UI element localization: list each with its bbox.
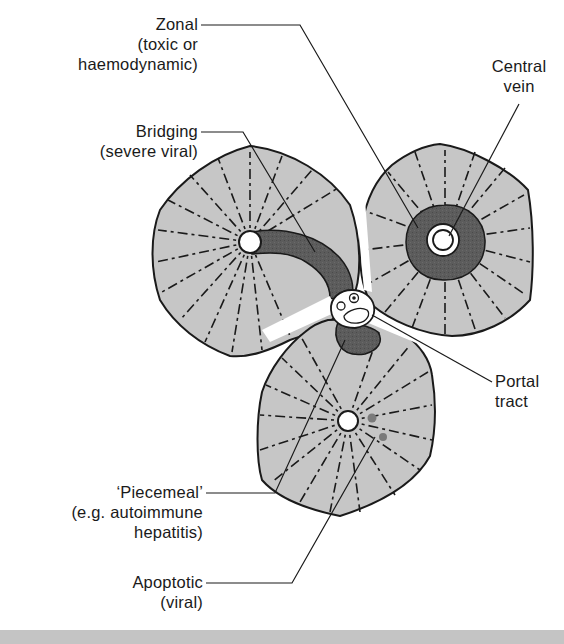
apoptotic-body-2 bbox=[379, 433, 387, 441]
central-vein-bottom bbox=[338, 411, 358, 431]
label-bridging: Bridging (severe viral) bbox=[40, 121, 198, 161]
label-portal-tract-line2: tract bbox=[495, 391, 563, 411]
label-piecemeal-subtitle-2: hepatitis) bbox=[20, 522, 203, 542]
label-bridging-subtitle: (severe viral) bbox=[40, 141, 198, 161]
label-central-vein-line2: vein bbox=[476, 76, 562, 96]
label-zonal-subtitle-1: (toxic or bbox=[40, 34, 198, 54]
label-bridging-title: Bridging bbox=[40, 121, 198, 141]
label-piecemeal: ‘Piecemeal’ (e.g. autoimmune hepatitis) bbox=[20, 482, 203, 542]
liver-lobule-diagram bbox=[0, 0, 564, 644]
label-zonal: Zonal (toxic or haemodynamic) bbox=[40, 14, 198, 74]
label-central-vein: Central vein bbox=[476, 56, 562, 96]
label-portal-tract-line1: Portal bbox=[495, 371, 563, 391]
label-apoptotic-subtitle: (viral) bbox=[40, 592, 203, 612]
label-portal-tract: Portal tract bbox=[495, 371, 563, 411]
central-vein-left bbox=[239, 231, 261, 253]
label-piecemeal-subtitle-1: (e.g. autoimmune bbox=[20, 502, 203, 522]
label-apoptotic: Apoptotic (viral) bbox=[40, 572, 203, 612]
bottom-grey-strip bbox=[0, 630, 564, 644]
lobule-bottom bbox=[258, 320, 435, 516]
label-apoptotic-title: Apoptotic bbox=[40, 572, 203, 592]
apoptotic-body-1 bbox=[368, 414, 377, 423]
hepatic-artery-lumen bbox=[352, 296, 356, 300]
label-piecemeal-title: ‘Piecemeal’ bbox=[20, 482, 203, 502]
label-zonal-subtitle-2: haemodynamic) bbox=[40, 54, 198, 74]
label-zonal-title: Zonal bbox=[40, 14, 198, 34]
label-central-vein-line1: Central bbox=[476, 56, 562, 76]
bile-duct bbox=[337, 302, 345, 310]
